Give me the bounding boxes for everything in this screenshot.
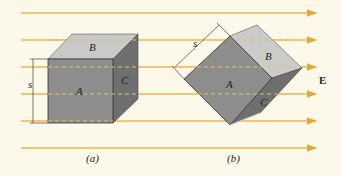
gauss-cube-diagram: s A B C (a) s A B C (b) E xyxy=(0,0,342,176)
face-label-b-top: B xyxy=(265,50,272,62)
face-label-a-side: C xyxy=(121,74,129,86)
dimension-label-a: s xyxy=(28,78,32,90)
face-label-a-top: B xyxy=(89,41,96,53)
dimension-s-a xyxy=(30,59,48,123)
caption-b: (b) xyxy=(227,152,240,165)
dimension-label-b: s xyxy=(193,37,197,49)
caption-a: (a) xyxy=(86,152,99,165)
face-label-a-front: A xyxy=(75,85,83,97)
face-label-b-side: C xyxy=(260,96,268,108)
field-label-e: E xyxy=(319,74,326,86)
face-label-b-front: A xyxy=(225,78,233,90)
cube-a: s A B C (a) xyxy=(28,34,138,165)
